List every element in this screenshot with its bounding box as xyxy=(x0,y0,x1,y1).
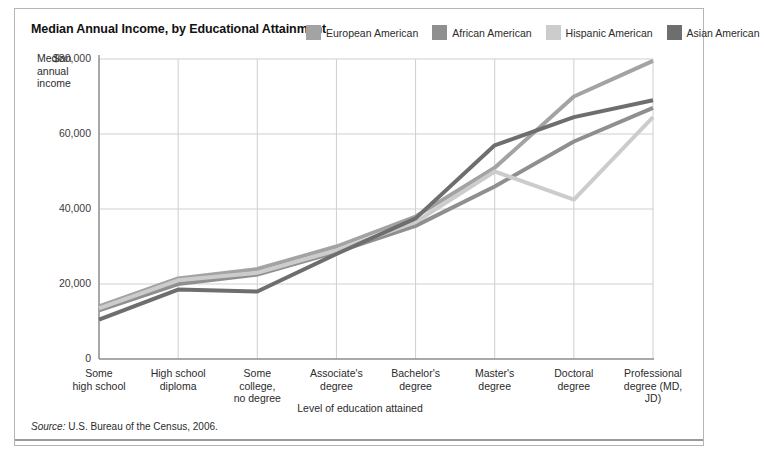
x-tick-label: High school diploma xyxy=(135,367,221,392)
x-tick-label: Doctoral degree xyxy=(531,367,617,392)
source-label: Source: xyxy=(31,421,65,432)
y-tick-label: $80,000 xyxy=(29,52,91,64)
x-axis-title: Level of education attained xyxy=(15,402,705,414)
y-tick-label: 40,000 xyxy=(29,202,91,214)
source-divider xyxy=(15,439,703,441)
x-tick-label: Some college, no degree xyxy=(214,367,300,405)
x-tick-label: Bachelor's degree xyxy=(373,367,459,392)
x-tick-label: Some high school xyxy=(56,367,142,392)
plot-area: $80,00060,00040,00020,0000Some high scho… xyxy=(15,9,705,447)
x-tick-label: Master's degree xyxy=(452,367,538,392)
y-tick-label: 60,000 xyxy=(29,127,91,139)
source-note: Source: U.S. Bureau of the Census, 2006. xyxy=(31,421,218,432)
y-tick-label: 0 xyxy=(29,352,91,364)
series-line xyxy=(99,100,653,319)
series-line xyxy=(99,61,653,307)
source-text: U.S. Bureau of the Census, 2006. xyxy=(65,421,217,432)
x-tick-label: Professional degree (MD, JD) xyxy=(610,367,696,405)
chart-figure: Median Annual Income, by Educational Att… xyxy=(14,8,704,446)
y-tick-label: 20,000 xyxy=(29,277,91,289)
x-tick-label: Associate's degree xyxy=(293,367,379,392)
